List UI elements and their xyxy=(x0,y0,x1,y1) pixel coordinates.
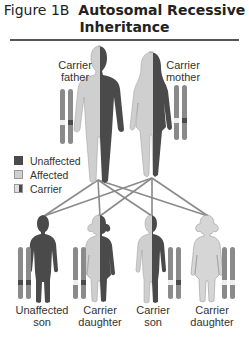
child-affected-daughter xyxy=(191,215,223,302)
father-chromosomes xyxy=(60,89,73,144)
unaffected-swatch-icon xyxy=(14,156,23,165)
legend-item-carrier: Carrier xyxy=(14,182,81,195)
mother-label: Carrier mother xyxy=(158,59,208,83)
legend-item-unaffected: Unaffected xyxy=(14,154,81,167)
child2-chromosomes xyxy=(73,247,86,299)
child-label-line1: Carrier xyxy=(70,304,130,316)
child-label-line1: Carrier xyxy=(128,304,178,316)
child-label-line2: son xyxy=(128,316,178,328)
child-carrier-son xyxy=(136,215,166,303)
legend-label: Carrier xyxy=(30,183,62,195)
mother-chromosomes xyxy=(174,85,187,140)
child-label-line2: daughter xyxy=(180,316,244,328)
child4-chromosomes xyxy=(222,247,235,299)
child3-chromosomes xyxy=(168,247,181,299)
child-label-line1: Carrier xyxy=(180,304,244,316)
legend-label: Unaffected xyxy=(30,155,81,167)
affected-swatch-icon xyxy=(14,170,23,179)
child-label-3: Carrier son xyxy=(128,304,178,328)
child-label-1: Unaffected son xyxy=(12,304,72,328)
father-label: Carrier father xyxy=(50,59,100,83)
father-label-line1: Carrier xyxy=(50,59,100,71)
legend-label: Affected xyxy=(30,169,68,181)
mother-label-line1: Carrier xyxy=(158,59,208,71)
child-label-2: Carrier daughter xyxy=(70,304,130,328)
child-label-line1: Unaffected xyxy=(12,304,72,316)
carrier-swatch-icon xyxy=(14,184,23,193)
child-label-4: Carrier daughter xyxy=(180,304,244,328)
legend-item-affected: Affected xyxy=(14,168,81,181)
mother-label-line2: mother xyxy=(158,71,208,83)
child-carrier-daughter-1 xyxy=(83,215,115,302)
father-label-line2: father xyxy=(50,71,100,83)
child-label-line2: daughter xyxy=(70,316,130,328)
child-label-line2: son xyxy=(12,316,72,328)
legend: Unaffected Affected Carrier xyxy=(14,154,81,196)
child-unaffected-son xyxy=(28,215,58,303)
child1-chromosomes xyxy=(18,247,31,299)
